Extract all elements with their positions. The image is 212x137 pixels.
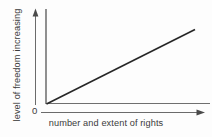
- y-axis-label-line2: increasing: [13, 9, 22, 52]
- increasing-arrow-icon: [33, 9, 39, 106]
- y-axis-label-line1: level of freedom: [13, 54, 22, 121]
- freedom-vs-rights-chart: level of freedom increasing 0 number and…: [0, 0, 212, 137]
- x-axis-label: number and extent of rights: [0, 119, 212, 128]
- arrow-right-icon: [41, 109, 205, 115]
- chart-plot-area: [0, 0, 212, 137]
- y-axis-label: level of freedom increasing: [7, 10, 29, 120]
- data-series-line: [47, 30, 196, 105]
- origin-tick-label: 0: [32, 106, 37, 116]
